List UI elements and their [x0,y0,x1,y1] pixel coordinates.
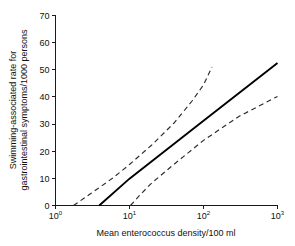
y-axis-title-line2: gastrointestinal symptoms/1000 persons [19,29,29,191]
series-lower-confidence-limit [130,96,277,205]
series-upper-confidence-limit [73,67,211,205]
y-tick: 30 [39,119,55,129]
x-tick: 100 [49,206,63,221]
series-fitted-rate [99,63,277,206]
y-tick: 10 [39,174,55,184]
x-tick-label: 102 [197,210,211,221]
y-axis-title-line1: Swimming-associated rate for [8,51,18,170]
data-series-group [73,63,277,206]
y-tick-label: 50 [39,65,49,75]
x-axis-ticks: 100101102103 [49,206,285,221]
y-tick-label: 40 [39,92,49,102]
x-tick: 101 [123,206,137,221]
y-tick-label: 60 [39,38,49,48]
axes-group [56,16,278,206]
y-tick-label: 20 [39,147,49,157]
y-tick: 0 [44,201,55,211]
y-tick: 70 [39,11,55,21]
x-tick: 102 [197,206,211,221]
x-tick-label: 100 [49,210,63,221]
y-tick-label: 0 [44,201,49,211]
y-tick: 40 [39,92,55,102]
y-tick: 20 [39,147,55,157]
y-tick-label: 10 [39,174,49,184]
y-tick-label: 70 [39,11,49,21]
y-tick-label: 30 [39,119,49,129]
x-tick-label: 103 [271,210,285,221]
y-tick: 50 [39,65,55,75]
chart-plot-area: 010203040506070 100101102103 Mean entero… [0,0,295,246]
x-tick-label: 101 [123,210,137,221]
chart-figure: 010203040506070 100101102103 Mean entero… [0,0,295,246]
y-axis-ticks: 010203040506070 [39,11,55,211]
x-tick: 103 [271,206,285,221]
x-axis-title: Mean enterococcus density/100 ml [96,228,235,238]
y-tick: 60 [39,38,55,48]
